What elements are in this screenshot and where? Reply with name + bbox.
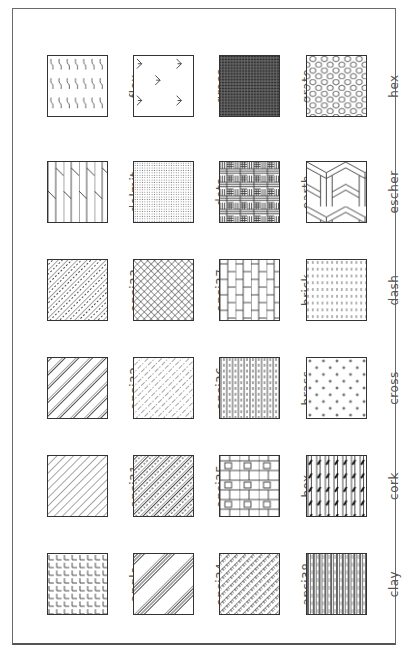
pattern-cell-grate: grate [219,55,305,153]
pattern-swatch-dolmit [47,161,108,223]
pattern-swatch-ansi33 [47,259,108,321]
pattern-cell-flex: flex [47,55,133,153]
pattern-cell-brass: brass [219,357,305,455]
pattern-label: cross [386,353,402,423]
pattern-swatch-dash [306,259,367,321]
pattern-swatch-grate [219,55,280,117]
pattern-swatch-cross [306,357,367,419]
pattern-label: hex [386,51,402,121]
pattern-cell-escher: escher [306,161,392,259]
pattern-label: clay [386,549,402,619]
pattern-cell-ansi31: ansi31 [47,455,133,553]
pattern-swatch-ansi38 [219,553,280,615]
pattern-swatch-ansi35 [133,455,194,517]
pattern-label: dash [386,255,402,325]
pattern-cell-brick: brick [219,259,305,357]
pattern-swatch-escher [306,161,367,223]
pattern-label: escher [386,157,402,227]
pattern-cell-earth: earth [219,161,305,259]
pattern-swatch-dots [133,161,194,223]
pattern-swatch-hex [306,55,367,117]
pattern-cell-angle: angle [47,553,133,651]
pattern-label: cork [386,451,402,521]
pattern-cell-grass: grass [133,55,219,153]
pattern-swatch-brass [219,357,280,419]
pattern-cell-box: box [219,455,305,553]
pattern-cell-hex: hex [306,55,392,153]
pattern-swatch-ansi32 [47,357,108,419]
pattern-cell-clay: clay [306,553,392,651]
pattern-cell-ansi33: ansi33 [47,259,133,357]
pattern-cell-cross: cross [306,357,392,455]
pattern-cell-ansi32: ansi32 [47,357,133,455]
pattern-cell-ansi35: ansi35 [133,455,219,553]
pattern-swatch-cork [306,455,367,517]
pattern-swatch-grass [133,55,194,117]
pattern-swatch-brick [219,259,280,321]
pattern-cell-cork: cork [306,455,392,553]
pattern-cell-ansi34: ansi34 [133,553,219,651]
pattern-cell-ansi36: ansi36 [133,357,219,455]
pattern-cell-dash: dash [306,259,392,357]
pattern-swatch-ansi31 [47,455,108,517]
pattern-swatch-ansi37 [133,259,194,321]
pattern-swatch-ansi34 [133,553,194,615]
pattern-swatch-angle [47,553,108,615]
pattern-cell-dots: dots [133,161,219,259]
pattern-swatch-ansi36 [133,357,194,419]
pattern-cell-dolmit: dolmit [47,161,133,259]
pattern-swatch-box [219,455,280,517]
pattern-cell-ansi37: ansi37 [133,259,219,357]
pattern-cell-ansi38: ansi38 [219,553,305,651]
pattern-swatch-clay [306,553,367,615]
pattern-swatch-flex [47,55,108,117]
pattern-swatch-earth [219,161,280,223]
